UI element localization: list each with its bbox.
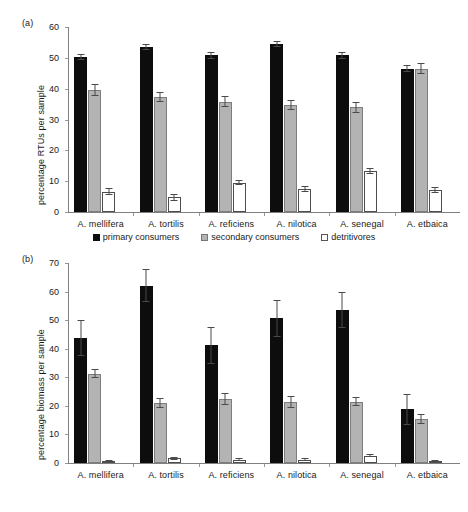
error-bar <box>168 457 181 459</box>
y-tick-label: 10 <box>37 177 59 186</box>
legend: primary consumers secondary consumers de… <box>0 232 468 242</box>
y-tick-mark <box>65 349 68 350</box>
bar-secondary-consumers <box>154 97 167 212</box>
bar-secondary-consumers <box>350 402 363 463</box>
legend-swatch-primary-icon <box>93 234 100 241</box>
panel-a-y-axis-label: percentage RTUs per sample <box>36 85 46 205</box>
y-tick-mark <box>65 292 68 293</box>
error-bar <box>336 292 349 328</box>
legend-item-primary: primary consumers <box>93 232 180 242</box>
error-bar <box>74 54 87 60</box>
x-tick-mark <box>395 213 396 216</box>
error-bar <box>350 397 363 406</box>
error-bar <box>298 186 311 192</box>
bar-primary-consumers <box>74 338 87 463</box>
x-tick-mark <box>199 464 200 467</box>
legend-item-secondary: secondary consumers <box>201 232 299 242</box>
error-bar <box>270 300 283 337</box>
error-bar <box>298 458 311 460</box>
panel-b-plot-area: 010203040506070A. melliferaA. tortilisA.… <box>68 263 460 463</box>
error-bar <box>233 458 246 460</box>
error-bar <box>233 180 246 186</box>
error-bar <box>219 393 232 406</box>
figure-root: (a) percentage RTUs per sample 010203040… <box>0 0 468 512</box>
error-bar <box>74 320 87 355</box>
error-bar <box>270 41 283 47</box>
x-tick-label: A. tortilis <box>133 470 198 480</box>
x-tick-label: A. etbaica <box>395 470 460 480</box>
y-tick-label: 40 <box>37 345 59 354</box>
y-tick-label: 0 <box>37 459 59 468</box>
panel-b-tag: (b) <box>22 254 33 264</box>
bar-secondary-consumers <box>415 69 428 212</box>
error-bar <box>140 44 153 50</box>
y-tick-label: 50 <box>37 316 59 325</box>
bar-primary-consumers <box>401 69 414 212</box>
bar-secondary-consumers <box>350 107 363 212</box>
bar-primary-consumers <box>270 44 283 212</box>
y-tick-label: 20 <box>37 402 59 411</box>
y-tick-mark <box>65 120 68 121</box>
x-tick-mark <box>329 464 330 467</box>
y-tick-label: 30 <box>37 373 59 382</box>
y-tick-label: 0 <box>37 208 59 217</box>
y-tick-label: 20 <box>37 146 59 155</box>
x-tick-mark <box>395 464 396 467</box>
error-bar <box>364 168 377 174</box>
error-bar <box>336 52 349 59</box>
y-tick-mark <box>65 181 68 182</box>
error-bar <box>401 65 414 72</box>
bar-secondary-consumers <box>284 105 297 212</box>
error-bar <box>168 194 181 201</box>
y-tick-label: 70 <box>37 259 59 268</box>
error-bar <box>154 398 167 408</box>
x-tick-mark <box>264 213 265 216</box>
panel-a: (a) percentage RTUs per sample 010203040… <box>0 10 468 238</box>
x-tick-mark <box>133 464 134 467</box>
y-axis-line <box>68 27 69 212</box>
x-tick-mark <box>133 213 134 216</box>
y-tick-mark <box>65 150 68 151</box>
y-tick-mark <box>65 320 68 321</box>
bar-secondary-consumers <box>219 399 232 463</box>
error-bar <box>429 460 442 462</box>
x-tick-label: A. mellifera <box>68 470 133 480</box>
error-bar <box>284 396 297 407</box>
x-tick-label: A. nilotica <box>264 470 329 480</box>
bar-primary-consumers <box>270 318 283 463</box>
error-bar <box>205 52 218 59</box>
legend-label-detritivores: detritivores <box>331 232 375 242</box>
bar-detritivores <box>233 183 246 212</box>
x-tick-mark <box>199 213 200 216</box>
y-tick-mark <box>65 463 68 464</box>
x-tick-label: A. reficiens <box>199 219 264 229</box>
error-bar <box>401 394 414 425</box>
panel-b: (b) percentage biomass per sample 010203… <box>0 248 468 512</box>
error-bar <box>364 454 377 457</box>
error-bar <box>350 102 363 113</box>
y-tick-mark <box>65 263 68 264</box>
y-axis-line <box>68 263 69 463</box>
bar-secondary-consumers <box>415 419 428 463</box>
y-tick-label: 40 <box>37 85 59 94</box>
error-bar <box>415 414 428 423</box>
error-bar <box>284 100 297 110</box>
x-tick-label: A. reficiens <box>199 470 264 480</box>
bar-secondary-consumers <box>88 374 101 463</box>
bar-detritivores <box>298 189 311 212</box>
y-tick-label: 30 <box>37 116 59 125</box>
bar-detritivores <box>364 171 377 212</box>
error-bar <box>219 96 232 108</box>
legend-item-detritivores: detritivores <box>321 232 375 242</box>
x-tick-label: A. mellifera <box>68 219 133 229</box>
error-bar <box>429 187 442 193</box>
y-tick-mark <box>65 406 68 407</box>
error-bar <box>154 92 167 102</box>
y-tick-label: 50 <box>37 54 59 63</box>
bar-primary-consumers <box>336 310 349 463</box>
y-tick-mark <box>65 377 68 378</box>
y-tick-mark <box>65 58 68 59</box>
y-tick-mark <box>65 434 68 435</box>
x-tick-label: A. nilotica <box>264 219 329 229</box>
legend-swatch-detritivores-icon <box>321 234 328 241</box>
